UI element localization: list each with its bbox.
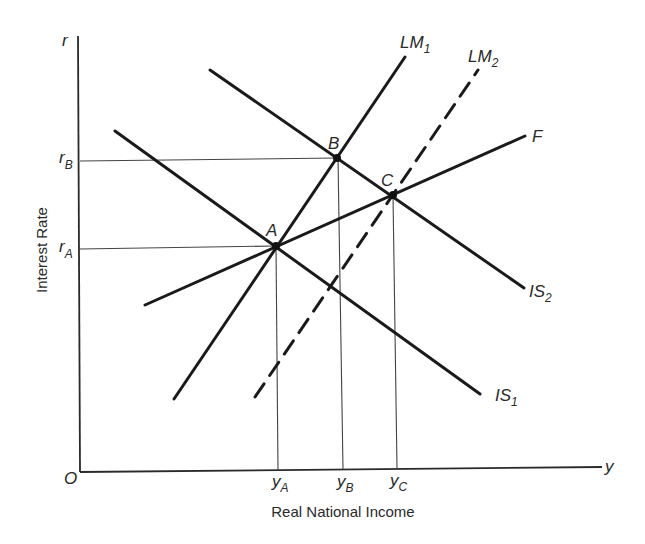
origin-label: O [64,469,77,488]
yb-label: yB [336,472,354,495]
y-axis [78,36,80,472]
lm1-label: LM1 [400,33,430,56]
point-a-label: A [265,221,277,240]
f-label: F [532,127,544,146]
y-axis-symbol: r [62,31,69,50]
rb-label: rB [59,148,73,172]
y-tick-labels: rB rA [59,148,73,261]
yc-label: yC [389,471,408,494]
rb-guide [80,158,337,161]
point-b-marker [333,154,341,162]
point-a-marker [272,242,280,250]
x-tick-labels: yA yB yC [271,471,408,495]
guide-lines [80,158,397,470]
y-axis-title: Interest Rate [33,207,50,293]
point-c-marker [389,191,397,199]
is2-label: IS2 [529,282,552,305]
axes: r y O Interest Rate Real National Income [33,31,615,520]
yb-guide [338,158,343,469]
curves [115,57,525,399]
x-axis-title: Real National Income [271,503,414,520]
x-axis-symbol: y [604,457,615,476]
ya-guide [276,246,278,470]
is1-curve [115,131,480,394]
ya-label: yA [271,472,289,495]
point-c-label: C [381,171,394,190]
is1-label: IS1 [495,386,518,409]
is-lm-diagram: r y O Interest Rate Real National Income… [0,0,645,544]
lm2-label: LM2 [468,47,499,70]
ra-label: rA [59,237,73,261]
point-b-label: B [328,134,339,153]
ra-guide [80,246,276,249]
